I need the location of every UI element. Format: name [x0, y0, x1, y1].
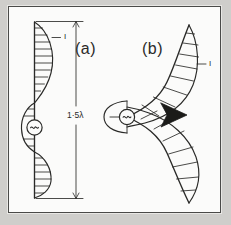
- antenna-a-upper-hatch: [35, 28, 53, 91]
- figure-root: (a) (b) I I 1·5λ: [0, 0, 231, 225]
- antenna-a-lower-lobe: [35, 152, 52, 198]
- panel-label-b: (b): [142, 40, 163, 58]
- figure-frame: (a) (b) I I 1·5λ: [8, 6, 221, 213]
- current-label-b: I: [209, 59, 211, 68]
- antenna-a-feed-source: [27, 120, 42, 135]
- antenna-b-feed-source: [119, 109, 134, 124]
- figure-canvas: [9, 7, 222, 214]
- panel-label-a: (a): [75, 40, 96, 58]
- antenna-b-lower-envelope: [127, 107, 199, 203]
- current-label-a: I: [64, 32, 66, 41]
- dimension-label: 1·5λ: [67, 110, 84, 120]
